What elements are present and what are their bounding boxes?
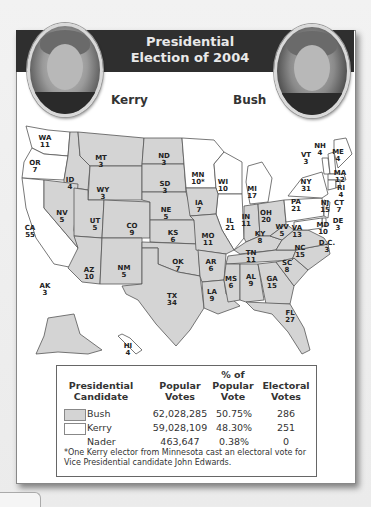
table-row-kerry: Kerry 59,028,109 48.30% 251 [57,422,316,435]
state-label-mi: MI17 [247,186,257,200]
candidate-name: Kerry [87,422,112,433]
kerry-color-swatch [64,423,86,435]
state-label-wy: WY3 [97,187,110,201]
header-popular-votes: Popular Votes [149,380,211,402]
state-label-va: VA13 [292,225,302,239]
state-label-il: IL21 [225,218,235,232]
state-label-nj: NJ15 [320,200,330,214]
state-label-ky: KY8 [255,231,266,245]
bush-portrait [274,24,350,118]
state-label-ok: OK7 [172,259,183,273]
state-label-dc: D.C.3 [319,240,335,254]
candidate-name: Bush [87,408,111,419]
header-candidate: Presidential Candidate [61,380,141,402]
state-label-hi: HI4 [124,343,132,357]
state-ak [36,314,102,354]
state-label-in: IN11 [241,214,251,228]
state-label-ia: IA7 [195,200,203,214]
state-label-mn: MN10* [191,172,204,186]
bush-label: Bush [233,93,266,107]
state-label-md: MD10 [317,222,330,236]
state-label-wi: WI10 [218,179,228,193]
map-title: Presidential Election of 2004 [100,34,280,66]
state-label-id: ID4 [66,177,74,191]
state-label-nd: ND3 [158,153,170,167]
title-line-2: Election of 2004 [100,50,280,66]
state-label-co: CO9 [126,223,137,237]
state-label-ne: NE5 [161,207,172,221]
state-label-sc: SC8 [282,260,292,274]
state-label-oh: OH20 [260,210,272,224]
electoral-votes: 286 [261,408,311,419]
state-label-vt: VT3 [301,152,311,166]
state-label-nc: NC15 [295,245,306,259]
state-label-wv: WV5 [275,224,288,238]
percent-vote: 48.30% [207,422,261,433]
state-label-pa: PA21 [291,199,301,213]
state-label-az: AZ10 [84,267,95,281]
percent-vote: 0.38% [207,436,261,447]
state-label-mo: MO11 [202,233,215,247]
footnote: *One Kerry elector from Minnesota cast a… [64,448,314,468]
state-label-ak: AK3 [40,283,51,297]
state-label-fl: FL27 [285,310,295,324]
candidate-name: Nader [87,436,116,447]
state-label-nh: NH4 [314,143,326,157]
state-label-me: ME4 [332,149,344,163]
state-label-ms: MS6 [225,276,237,290]
popular-votes: 62,028,285 [143,408,217,419]
state-label-la: LA9 [207,289,217,303]
state-label-ks: KS6 [168,230,178,244]
state-label-ma: MA12 [334,170,346,184]
results-table: Presidential Candidate Popular Votes % o… [56,365,317,477]
popular-votes: 59,028,109 [143,422,217,433]
state-mt [78,132,144,166]
table-row-bush: Bush 62,028,285 50.75% 286 [57,408,316,421]
state-label-ct: CT7 [334,200,344,214]
header-electoral-votes: Electoral Votes [259,380,313,402]
state-label-nm: NM5 [118,265,131,279]
state-label-ar: AR6 [206,259,217,273]
percent-vote: 50.75% [207,408,261,419]
kerry-portrait [27,23,103,117]
popular-votes: 463,647 [143,436,217,447]
state-label-ut: UT5 [90,218,100,232]
state-label-de: DE3 [333,218,344,232]
state-label-sd: SD3 [160,181,171,195]
state-label-ny: NY31 [301,179,312,193]
state-label-mt: MT3 [95,155,107,169]
header-percent-popular: % of Popular Vote [209,369,257,402]
state-fl [246,302,310,354]
state-label-tn: TN11 [246,250,257,264]
electoral-votes: 0 [261,436,311,447]
kerry-label: Kerry [111,93,148,107]
bush-color-swatch [64,409,86,421]
state-label-nv: NV5 [56,210,67,224]
state-label-tx: TX34 [167,293,177,307]
page-tab [0,492,41,507]
state-label-ca: CA55 [25,225,36,239]
state-label-or: OR7 [29,160,40,174]
electoral-votes: 251 [261,422,311,433]
state-label-al: AL9 [246,274,256,288]
title-line-1: Presidential [100,34,280,50]
state-label-ga: GA15 [266,276,277,290]
state-label-ri: RI4 [337,185,345,199]
state-label-wa: WA11 [39,135,52,149]
